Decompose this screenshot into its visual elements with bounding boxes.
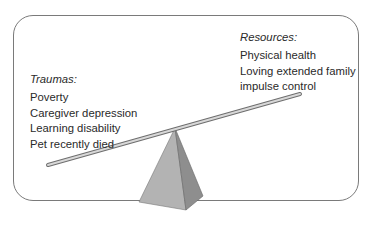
resource-item: impulse control bbox=[240, 79, 356, 94]
traumas-list: Traumas: Poverty Caregiver depression Le… bbox=[30, 72, 137, 152]
trauma-item: Learning disability bbox=[30, 121, 137, 136]
traumas-heading: Traumas: bbox=[30, 72, 137, 87]
trauma-item: Pet recently died bbox=[30, 137, 137, 152]
resource-item: Loving extended family bbox=[240, 64, 356, 79]
resource-item: Physical health bbox=[240, 48, 356, 63]
resources-heading: Resources: bbox=[240, 30, 356, 45]
resources-list: Resources: Physical health Loving extend… bbox=[240, 30, 356, 95]
trauma-item: Poverty bbox=[30, 90, 137, 105]
pyramid-fulcrum bbox=[139, 128, 203, 210]
trauma-item: Caregiver depression bbox=[30, 106, 137, 121]
